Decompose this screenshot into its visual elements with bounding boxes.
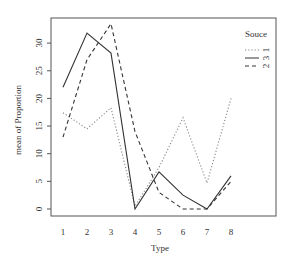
series-line-3 <box>63 33 231 209</box>
y-tick-label: 30 <box>34 38 44 48</box>
y-tick-label: 15 <box>34 121 44 131</box>
x-tick-label: 3 <box>109 227 114 237</box>
y-axis-title: mean of Proportion <box>13 85 23 155</box>
y-tick-label: 20 <box>34 93 44 103</box>
series-lines <box>63 24 231 209</box>
x-tick-label: 8 <box>229 227 234 237</box>
x-tick-label: 5 <box>157 227 162 237</box>
legend-label-1: 1 <box>261 48 271 53</box>
x-axis-title: Type <box>151 243 169 253</box>
x-tick-label: 2 <box>85 227 90 237</box>
legend-title: Souce <box>245 29 267 39</box>
plot-box <box>51 18 276 216</box>
x-tick-label: 1 <box>61 227 66 237</box>
interaction-plot: 051015202530 12345678 Type mean of Propo… <box>0 0 291 264</box>
legend-label-2: 2 <box>261 64 271 69</box>
y-axis: 051015202530 <box>34 38 51 211</box>
y-tick-label: 5 <box>34 179 44 184</box>
x-tick-label: 6 <box>181 227 186 237</box>
x-axis: 12345678 <box>61 227 234 237</box>
legend-label-3: 3 <box>261 55 271 60</box>
y-tick-label: 25 <box>34 66 44 76</box>
x-tick-label: 4 <box>133 227 138 237</box>
y-tick-label: 10 <box>34 149 44 159</box>
x-tick-label: 7 <box>205 227 210 237</box>
y-tick-label: 0 <box>34 206 44 211</box>
legend: Souce 132 <box>245 29 271 68</box>
